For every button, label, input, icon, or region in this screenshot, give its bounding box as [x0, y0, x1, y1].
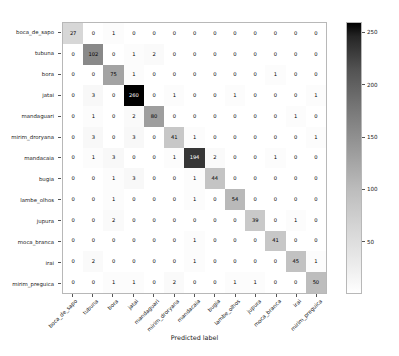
- heatmap-cell: 3: [83, 85, 103, 106]
- heatmap-cell: 3: [103, 148, 123, 169]
- heatmap-cell: 0: [306, 65, 326, 86]
- heatmap-cell: 0: [245, 231, 265, 252]
- heatmap-cell: 0: [63, 127, 83, 148]
- heatmap-cell: 0: [124, 189, 144, 210]
- heatmap-cell: 41: [265, 231, 285, 252]
- heatmap-cell: 45: [286, 251, 306, 272]
- heatmap-cell: 0: [205, 231, 225, 252]
- heatmap-cell: 0: [63, 251, 83, 272]
- heatmap-cell: 0: [103, 85, 123, 106]
- heatmap-cell: 2: [124, 106, 144, 127]
- heatmap-cell: 0: [184, 85, 204, 106]
- heatmap-cell: 0: [164, 23, 184, 44]
- heatmap-cell: 0: [144, 127, 164, 148]
- heatmap-cell: 0: [184, 23, 204, 44]
- heatmap-cell: 0: [205, 127, 225, 148]
- heatmap-cell: 0: [286, 65, 306, 86]
- heatmap-cell: 0: [286, 148, 306, 169]
- heatmap-cell: 1: [83, 148, 103, 169]
- heatmap-cell: 0: [83, 168, 103, 189]
- heatmap-cell: 0: [124, 251, 144, 272]
- heatmap-cell: 0: [245, 65, 265, 86]
- heatmap-cell: 0: [124, 148, 144, 169]
- heatmap-cell: 27: [63, 23, 83, 44]
- heatmap-cell: 54: [225, 189, 245, 210]
- heatmap-cell: 0: [144, 148, 164, 169]
- heatmap-cell: 0: [83, 231, 103, 252]
- heatmap-cell: 0: [63, 65, 83, 86]
- heatmap-cell: 0: [205, 189, 225, 210]
- heatmap-cell: 0: [205, 106, 225, 127]
- heatmap-cell: 0: [286, 189, 306, 210]
- colorbar-tick-mark: [362, 137, 365, 138]
- heatmap-cell: 1: [184, 251, 204, 272]
- heatmap-cell: 0: [124, 231, 144, 252]
- heatmap-cell: 0: [286, 85, 306, 106]
- heatmap-cell: 3: [124, 127, 144, 148]
- heatmap-cell: 0: [306, 210, 326, 231]
- heatmap-cell: 0: [63, 231, 83, 252]
- y-tick-label: mirim_preguica: [0, 273, 58, 294]
- heatmap-cell: 0: [245, 168, 265, 189]
- heatmap-cell: 0: [286, 272, 306, 293]
- heatmap-cell: 0: [245, 189, 265, 210]
- colorbar-tick-value: 100: [367, 186, 378, 192]
- heatmap-cell: 0: [103, 106, 123, 127]
- heatmap-cell: 0: [103, 127, 123, 148]
- heatmap-cell: 0: [225, 23, 245, 44]
- heatmap-cell: 0: [63, 168, 83, 189]
- heatmap-cell: 0: [205, 251, 225, 272]
- heatmap-cell: 0: [225, 44, 245, 65]
- heatmap-cell: 0: [184, 65, 204, 86]
- heatmap-cell: 1: [265, 65, 285, 86]
- heatmap-cell: 0: [83, 189, 103, 210]
- heatmap-cell: 0: [306, 148, 326, 169]
- y-tick-label: irai: [0, 252, 58, 273]
- heatmap-cell: 0: [83, 272, 103, 293]
- heatmap-cell: 0: [63, 44, 83, 65]
- heatmap-cell: 102: [83, 44, 103, 65]
- heatmap-cell: 0: [103, 44, 123, 65]
- y-tick-label: tubuna: [0, 43, 58, 64]
- heatmap-cell: 0: [205, 272, 225, 293]
- heatmap-cell: 0: [144, 189, 164, 210]
- heatmap-cell: 0: [286, 127, 306, 148]
- heatmap-cell: 1: [286, 210, 306, 231]
- x-tick-label: irai: [292, 298, 302, 308]
- heatmap-cell: 194: [184, 148, 204, 169]
- heatmap-cell: 0: [164, 65, 184, 86]
- heatmap-cell: 0: [164, 251, 184, 272]
- heatmap-cell: 1: [184, 189, 204, 210]
- heatmap-cell: 0: [245, 44, 265, 65]
- heatmap-cell: 0: [225, 106, 245, 127]
- heatmap-cell: 41: [164, 127, 184, 148]
- y-axis-tick-labels: boca_de_sapotubunaborajataimandaguarimir…: [0, 22, 58, 294]
- colorbar-tick-value: 250: [367, 29, 378, 35]
- heatmap-cell: 0: [144, 23, 164, 44]
- colorbar-tick-value: 50: [367, 239, 374, 245]
- heatmap-cell: 0: [63, 106, 83, 127]
- heatmap-cell: 0: [144, 168, 164, 189]
- heatmap-cell: 0: [124, 23, 144, 44]
- heatmap-cell: 0: [124, 210, 144, 231]
- heatmap-cell: 0: [265, 127, 285, 148]
- heatmap-cell: 2: [83, 251, 103, 272]
- colorbar-tick-labels: 50100150200250: [362, 22, 396, 294]
- heatmap-cell: 0: [164, 168, 184, 189]
- heatmap-cell: 0: [286, 231, 306, 252]
- heatmap-cell: 1: [124, 272, 144, 293]
- heatmap-cell: 50: [306, 272, 326, 293]
- heatmap-cell: 3: [124, 168, 144, 189]
- heatmap-cell: 0: [63, 148, 83, 169]
- heatmap-cell: 0: [245, 23, 265, 44]
- heatmap-cell: 0: [83, 210, 103, 231]
- heatmap-cell: 0: [144, 85, 164, 106]
- heatmap-cell: 0: [265, 251, 285, 272]
- heatmap-cell: 0: [144, 210, 164, 231]
- heatmap-cell: 1: [164, 148, 184, 169]
- heatmap-cell: 0: [286, 168, 306, 189]
- heatmap-cell: 1: [306, 127, 326, 148]
- heatmap-cell: 1: [164, 85, 184, 106]
- heatmap-cell: 1: [306, 251, 326, 272]
- colorbar-tick: 50: [362, 239, 374, 245]
